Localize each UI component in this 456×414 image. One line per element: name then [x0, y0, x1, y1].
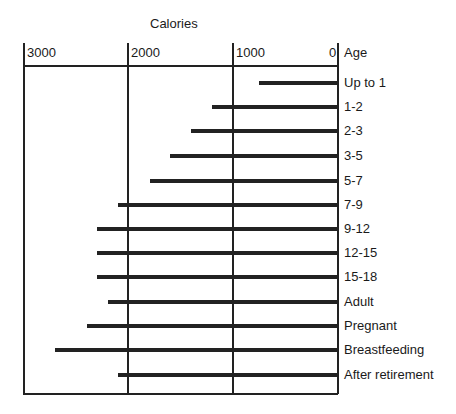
gridline-1000 — [232, 43, 234, 394]
row-label: After retirement — [344, 368, 434, 382]
row-label: 15-18 — [344, 270, 377, 284]
bar-after-retirement — [118, 373, 338, 377]
axis-top-line — [23, 65, 338, 67]
bar-adult — [108, 300, 338, 304]
age-header: Age — [344, 45, 367, 60]
bar-pregnant — [87, 324, 338, 328]
chart-title: Calories — [150, 16, 198, 31]
bar-breastfeeding — [55, 348, 338, 352]
row-label: 7-9 — [344, 198, 363, 212]
tick-label-1000: 1000 — [236, 45, 265, 60]
bar-15-18 — [97, 275, 338, 279]
row-label: 1-2 — [344, 100, 363, 114]
bar-5-7 — [150, 179, 338, 183]
row-label: 3-5 — [344, 149, 363, 163]
row-label: 12-15 — [344, 246, 377, 260]
bar-3-5 — [170, 154, 338, 158]
bar-9-12 — [97, 227, 338, 231]
tick-label-3000: 3000 — [27, 45, 56, 60]
row-label: 5-7 — [344, 174, 363, 188]
gridline-3000 — [23, 43, 25, 394]
bar-12-15 — [97, 251, 338, 255]
row-label: Up to 1 — [344, 76, 386, 90]
gridline-2000 — [127, 43, 129, 394]
row-label: Breastfeeding — [344, 343, 424, 357]
bar-2-3 — [191, 129, 338, 133]
tick-label-2000: 2000 — [131, 45, 160, 60]
tick-label-0: 0 — [329, 45, 336, 60]
axis-bottom-line — [23, 393, 338, 395]
row-label: Adult — [344, 295, 374, 309]
row-label: 2-3 — [344, 124, 363, 138]
bar-1-2 — [212, 105, 338, 109]
gridline-0 — [337, 43, 339, 394]
row-label: 9-12 — [344, 222, 370, 236]
bar-7-9 — [118, 203, 338, 207]
row-label: Pregnant — [344, 319, 397, 333]
bar-up-to-1 — [259, 81, 338, 85]
